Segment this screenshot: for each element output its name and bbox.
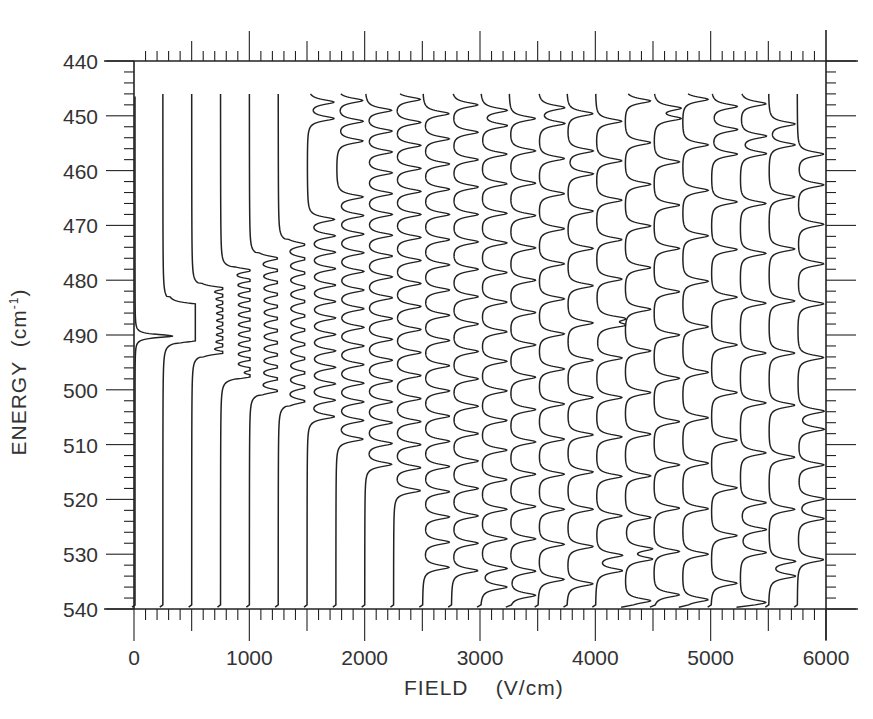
y-tick-label: 480 — [63, 269, 98, 292]
y-axis-right — [826, 61, 856, 609]
y-tick-label: 500 — [63, 379, 98, 402]
x-tick-label: 0 — [128, 646, 140, 669]
stark-spectra-chart: 0100020003000400050006000 44045046047048… — [0, 0, 873, 719]
spectrum-trace-2750 — [448, 94, 478, 607]
spectrum-trace-5250 — [737, 94, 767, 607]
spectrum-trace-3250 — [506, 94, 536, 607]
spectrum-trace-3750 — [564, 94, 594, 607]
spectrum-trace-3000 — [477, 94, 507, 607]
spectrum-trace-5000 — [708, 94, 738, 607]
spectrum-trace-4000 — [592, 94, 625, 607]
x-tick-label: 2000 — [341, 646, 388, 669]
spectrum-trace-5500 — [765, 94, 795, 607]
spectrum-trace-4250 — [621, 94, 652, 607]
y-tick-label: 540 — [63, 598, 98, 621]
x-tick-label: 5000 — [687, 646, 734, 669]
spectrum-trace-2250 — [391, 94, 421, 607]
spectrum-trace-5750 — [794, 94, 824, 607]
spectrum-trace-1250 — [275, 94, 305, 607]
y-tick-label: 460 — [63, 160, 98, 183]
y-tick-label: 510 — [63, 434, 98, 457]
x-tick-label: 3000 — [457, 646, 504, 669]
y-axis-unit-sup: -1 — [7, 296, 21, 309]
x-axis-bottom — [134, 609, 826, 641]
spectrum-trace-1750 — [333, 94, 364, 607]
x-tick-label: 1000 — [226, 646, 273, 669]
spectrum-trace-4750 — [679, 94, 708, 607]
y-tick-label: 520 — [63, 488, 98, 511]
y-tick-labels: 440450460470480490500510520530540 — [63, 50, 98, 621]
y-axis-unit-prefix: (cm — [7, 309, 30, 347]
spectrum-trace-2500 — [419, 94, 449, 607]
spectrum-trace-3500 — [535, 94, 565, 607]
y-axis-title-text: ENERGY (cm-1) — [7, 288, 31, 455]
y-tick-label: 530 — [63, 543, 98, 566]
y-axis-title: ENERGY (cm-1) — [4, 252, 34, 492]
y-axis-title-main: ENERGY — [7, 361, 30, 456]
y-tick-label: 450 — [63, 105, 98, 128]
x-axis-title: FIELD (V/cm) — [404, 676, 564, 700]
spectrum-trace-4500 — [650, 94, 681, 607]
spectrum-trace-250 — [160, 94, 196, 607]
x-axis-top — [146, 31, 815, 61]
x-tick-label: 6000 — [803, 646, 850, 669]
y-axis-unit-suffix: ) — [7, 288, 30, 296]
y-tick-label: 470 — [63, 214, 98, 237]
spectrum-trace-1500 — [304, 94, 336, 607]
y-axis-left — [106, 61, 134, 609]
x-tick-label: 4000 — [572, 646, 619, 669]
x-tick-labels: 0100020003000400050006000 — [128, 646, 849, 669]
y-tick-label: 490 — [63, 324, 98, 347]
y-tick-label: 440 — [63, 50, 98, 73]
spectrum-trace-500 — [189, 94, 223, 607]
spectrum-trace-750 — [218, 94, 251, 607]
spectrum-trace-0 — [132, 97, 173, 608]
spectral-traces — [132, 94, 824, 607]
spectrum-trace-1000 — [246, 94, 277, 607]
spectrum-trace-2000 — [362, 94, 393, 607]
